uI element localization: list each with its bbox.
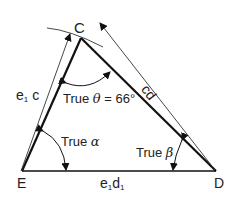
edge-label-e1d1: e1d1 — [100, 176, 125, 192]
vertex-label-d: D — [214, 176, 224, 190]
angle-label-theta: True θ = 66° — [63, 92, 135, 105]
triangle-diagram: C E D e1 c cd e1d1 True θ = 66° True α T… — [0, 0, 234, 197]
alpha-symbol: α — [91, 134, 100, 149]
e1d1-e: e — [100, 175, 108, 191]
e1c-main: e — [16, 87, 24, 103]
angle-label-alpha: True α — [61, 135, 100, 148]
theta-prefix: True — [63, 91, 93, 106]
beta-symbol: β — [166, 145, 174, 160]
theta-symbol: θ — [93, 91, 101, 106]
beta-prefix: True — [136, 145, 166, 160]
e1d1-d: d — [112, 175, 120, 191]
theta-arc — [66, 72, 110, 86]
beta-arc — [173, 140, 182, 170]
e1d1-sub2: 1 — [120, 183, 124, 192]
theta-suffix: = 66° — [101, 91, 135, 106]
vertex-label-e: E — [17, 176, 26, 190]
edge-label-e1c: e1 c — [16, 88, 39, 104]
angle-label-beta: True β — [136, 146, 173, 159]
e1c-rest: c — [28, 87, 39, 103]
alpha-prefix: True — [61, 134, 91, 149]
vertex-label-c: C — [74, 20, 85, 35]
